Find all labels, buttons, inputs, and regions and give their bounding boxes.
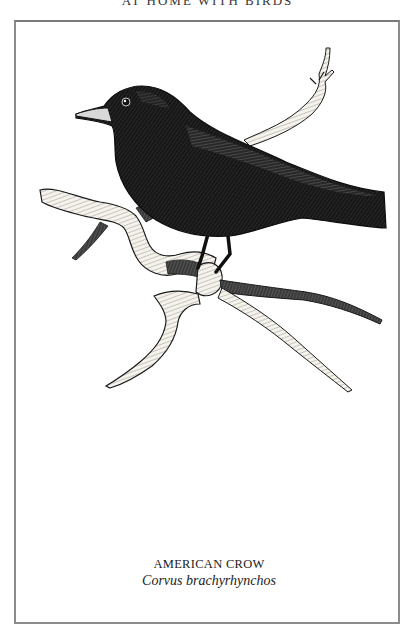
caption-common-name: AMERICAN CROW <box>16 557 402 572</box>
running-head: AT HOME WITH BIRDS <box>0 0 415 9</box>
lower-branches <box>106 263 382 392</box>
plate-frame: AMERICAN CROW Corvus brachyrhynchos <box>14 20 400 624</box>
caption-scientific-name: Corvus brachyrhynchos <box>16 573 402 589</box>
upper-twig <box>244 48 334 146</box>
crow-illustration <box>16 22 402 626</box>
